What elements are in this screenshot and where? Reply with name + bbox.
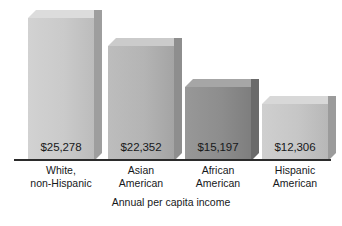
bar-top-face-4 [262,96,336,104]
bar-top-face-2 [108,38,182,46]
bar-side-face-4 [328,96,336,161]
bar-value-label-4: $12,306 [262,141,328,153]
plot-area: $25,278 $22,352 $15,197 $12,306 [0,0,342,161]
bar-front-face-2: $22,352 [108,46,174,161]
category-label-3-line2: American [177,177,259,190]
category-label-1-line2: non-Hispanic [20,177,102,190]
category-label-3: African American [177,164,259,189]
category-label-4-line1: Hispanic [275,164,315,176]
bar-side-face-2 [174,38,182,161]
bar-side-face-1 [94,10,102,161]
bar-group-4: $12,306 [262,96,328,161]
bar-value-label-3: $15,197 [185,141,251,153]
x-axis-title: Annual per capita income [0,196,342,208]
bar-chart: $25,278 $22,352 $15,197 $12,306 [0,0,342,226]
category-label-4-line2: American [254,177,336,190]
bar-front-face-3: $15,197 [185,87,251,161]
category-label-3-line1: African [202,164,235,176]
bar-top-face-3 [185,79,259,87]
x-axis-line [14,159,331,161]
category-label-1-line1: White, [46,164,76,176]
category-axis-labels: White, non-Hispanic Asian American Afric… [0,164,342,196]
bar-group-3: $15,197 [185,79,251,161]
category-label-2: Asian American [100,164,182,189]
bar-front-face-1: $25,278 [28,18,94,161]
category-label-1: White, non-Hispanic [20,164,102,189]
category-label-2-line2: American [100,177,182,190]
bar-value-label-2: $22,352 [108,141,174,153]
bar-side-face-3 [251,79,259,161]
category-label-2-line1: Asian [128,164,154,176]
category-label-4: Hispanic American [254,164,336,189]
bar-group-1: $25,278 [28,10,94,161]
bar-value-label-1: $25,278 [28,141,94,153]
bar-group-2: $22,352 [108,38,174,161]
bar-front-face-4: $12,306 [262,104,328,161]
bar-top-face-1 [28,10,102,18]
